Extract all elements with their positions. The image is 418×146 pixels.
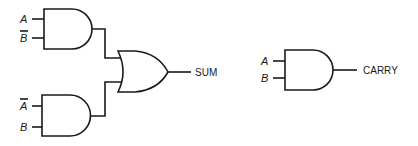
input-label-abar-bottom: A bbox=[19, 100, 27, 112]
half-adder-diagram: A B A B SUM A B CARRY bbox=[0, 0, 418, 146]
input-label-a-carry: A bbox=[260, 55, 268, 67]
sum-label: SUM bbox=[195, 67, 217, 78]
or-gate: SUM bbox=[118, 51, 217, 92]
carry-label: CARRY bbox=[363, 65, 398, 76]
wire-top-and-to-or bbox=[92, 29, 121, 58]
input-label-b-bottom: B bbox=[20, 121, 27, 133]
and-gate-top-body bbox=[44, 9, 92, 49]
and-gate-bottom-body bbox=[42, 95, 90, 136]
and-gate-carry: A B CARRY bbox=[260, 50, 398, 90]
and-gate-top: A B bbox=[19, 9, 92, 49]
input-label-b-carry: B bbox=[261, 72, 268, 84]
input-label-bbar-top: B bbox=[20, 32, 27, 44]
and-gate-bottom: A B bbox=[19, 95, 90, 136]
or-gate-body bbox=[118, 51, 168, 92]
input-label-a-top: A bbox=[19, 13, 27, 25]
wire-bottom-and-to-or bbox=[90, 82, 121, 116]
and-gate-carry-body bbox=[285, 50, 333, 90]
